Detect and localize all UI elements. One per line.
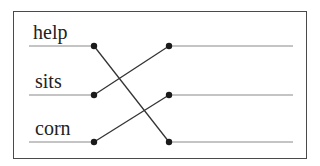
connection-sits-to-1 bbox=[94, 46, 169, 95]
left-dot-3 bbox=[91, 139, 97, 145]
right-dot-3 bbox=[166, 139, 172, 145]
connection-corn-to-2 bbox=[94, 95, 169, 142]
right-dot-1 bbox=[166, 43, 172, 49]
left-dot-2 bbox=[91, 92, 97, 98]
matching-lines-svg bbox=[0, 0, 320, 166]
left-dot-1 bbox=[91, 43, 97, 49]
connection-help-to-3 bbox=[94, 46, 169, 142]
right-dot-2 bbox=[166, 92, 172, 98]
